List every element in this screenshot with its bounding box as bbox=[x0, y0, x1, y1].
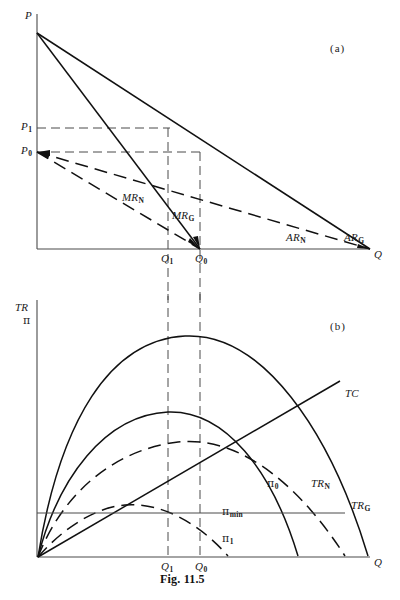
panel-a-q0-base: Q bbox=[195, 252, 203, 264]
curve-label-mrg: MRG bbox=[172, 210, 194, 221]
mrg-sub: G bbox=[189, 214, 195, 223]
trg-base: TR bbox=[351, 499, 364, 511]
mrn-base: MR bbox=[122, 191, 138, 203]
arg-sub: G bbox=[358, 236, 364, 245]
curve-label-pi0: π0 bbox=[267, 478, 278, 489]
figure-container: (a) P P1 P0 Q1 Q0 Q MRN MRG ARN ARG (b) … bbox=[0, 0, 400, 600]
p0-base: P bbox=[21, 144, 28, 156]
curve-label-trg: TRG bbox=[351, 500, 370, 511]
panel-b-q0-base: Q bbox=[195, 560, 203, 572]
trn-sub: N bbox=[325, 482, 331, 491]
mrg-base: MR bbox=[172, 209, 188, 221]
curve-label-mrn: MRN bbox=[122, 192, 144, 203]
pimin-base: π bbox=[222, 505, 229, 518]
panel-a-price-label-p0: P0 bbox=[21, 145, 32, 156]
panel-a-q1-sub: 1 bbox=[169, 257, 173, 266]
panel-a-tag: (a) bbox=[330, 42, 345, 54]
figure-drawing bbox=[0, 0, 400, 600]
p1-sub: 1 bbox=[28, 125, 32, 134]
panel-a-q0-sub: 0 bbox=[203, 257, 207, 266]
pi1-sub: 1 bbox=[230, 537, 234, 546]
curve-label-pi1: π1 bbox=[222, 533, 233, 544]
curve-label-arg: ARG bbox=[344, 232, 364, 243]
arn-base: AR bbox=[286, 231, 300, 243]
trg-sub: G bbox=[365, 504, 371, 513]
panel-b-quantity-label-q0: Q0 bbox=[195, 561, 207, 572]
curve-label-trn: TRN bbox=[311, 478, 330, 489]
curve-arn bbox=[37, 152, 370, 249]
pi0-sub: 0 bbox=[275, 482, 279, 491]
pi0-base: π bbox=[267, 477, 274, 490]
panel-a-x-axis-label: Q bbox=[374, 249, 382, 260]
panel-a-y-axis-label: P bbox=[25, 10, 32, 21]
arn-sub: N bbox=[300, 236, 306, 245]
curve-label-tc: TC bbox=[345, 388, 359, 399]
panel-b-q1-base: Q bbox=[161, 560, 169, 572]
pi1-base: π bbox=[222, 532, 229, 545]
panel-b-group bbox=[37, 294, 370, 557]
panel-b-x-axis-label: Q bbox=[374, 557, 382, 568]
curve-mrn bbox=[37, 152, 200, 249]
pimin-sub: min bbox=[230, 510, 243, 519]
panel-b-tag: (b) bbox=[330, 320, 346, 332]
p0-sub: 0 bbox=[28, 149, 32, 158]
mrn-sub: N bbox=[139, 196, 145, 205]
curve-label-arn: ARN bbox=[286, 232, 305, 243]
curve-trg bbox=[38, 336, 368, 557]
panel-b-y-axis-label-pi: π bbox=[23, 315, 30, 326]
panel-a-price-label-p1: P1 bbox=[21, 121, 32, 132]
panel-b-quantity-label-q1: Q1 bbox=[161, 561, 173, 572]
curve-tc bbox=[38, 381, 340, 557]
panel-a-quantity-label-q1: Q1 bbox=[161, 253, 173, 264]
figure-caption: Fig. 11.5 bbox=[160, 572, 205, 587]
curve-label-pimin: πmin bbox=[222, 506, 243, 517]
panel-b-y-axis-label-tr: TR bbox=[15, 302, 28, 313]
p1-base: P bbox=[21, 120, 28, 132]
trn-base: TR bbox=[311, 477, 324, 489]
curve-arg bbox=[37, 33, 370, 249]
panel-a-quantity-label-q0: Q0 bbox=[195, 253, 207, 264]
panel-a-q1-base: Q bbox=[161, 252, 169, 264]
arg-base: AR bbox=[344, 231, 358, 243]
